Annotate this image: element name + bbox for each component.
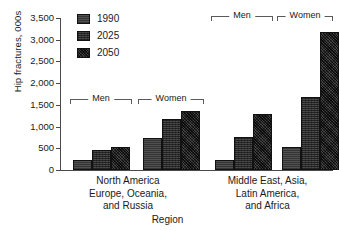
bar-me-men-2050 (253, 114, 272, 170)
x-axis-title: Region (0, 214, 335, 225)
x-category-label-north-america: North America Europe, Oceania, and Russi… (58, 175, 198, 213)
y-tick-label-1: 500 (14, 144, 54, 154)
legend-item-1990: 1990 (77, 11, 119, 26)
x-category-label-middle-east: Middle East, Asia, Latin America, and Af… (200, 175, 335, 213)
bracket-left-men: Men (70, 95, 132, 106)
y-tick-label-5: 2,500 (14, 57, 54, 67)
bracket-right-men: Men (211, 12, 273, 23)
y-tick-label-3: 1,500 (14, 100, 54, 110)
x-axis-line (60, 170, 333, 171)
bracket-left-women: Women (138, 95, 204, 106)
bracket-left-women-label: Women (152, 93, 191, 104)
bar-me-women-1990 (282, 147, 301, 170)
legend-item-2025: 2025 (77, 28, 119, 43)
legend-swatch-2025-icon (77, 31, 90, 41)
bar-na-men-2025 (92, 150, 111, 170)
y-tick-label-7: 3,500 (14, 13, 54, 23)
bracket-right-women: Women (277, 12, 333, 23)
legend-item-2050: 2050 (77, 45, 119, 60)
bar-na-men-2050 (111, 147, 130, 170)
bar-me-men-1990 (215, 160, 234, 170)
bracket-right-men-label: Men (229, 10, 255, 21)
y-tick-label-2: 1,000 (14, 122, 54, 132)
bar-me-men-2025 (234, 137, 253, 170)
legend-label-2025: 2025 (97, 31, 119, 41)
bar-me-women-2050 (320, 32, 339, 170)
legend: 1990 2025 2050 (77, 11, 119, 62)
y-tick-label-6: 3,000 (14, 35, 54, 45)
bar-na-women-2025 (162, 119, 181, 170)
legend-swatch-1990-icon (77, 14, 90, 24)
bracket-left-men-label: Men (88, 93, 114, 104)
legend-label-1990: 1990 (97, 14, 119, 24)
y-tick-label-4: 2,000 (14, 78, 54, 88)
y-axis-line (60, 18, 61, 170)
bar-na-men-1990 (73, 160, 92, 170)
bar-me-women-2025 (301, 97, 320, 170)
bar-na-women-1990 (143, 138, 162, 170)
y-tick-label-0: 0 (14, 165, 54, 175)
bar-na-women-2050 (181, 111, 200, 170)
legend-swatch-2050-icon (77, 48, 90, 58)
bracket-right-women-label: Women (286, 10, 325, 21)
legend-label-2050: 2050 (97, 48, 119, 58)
